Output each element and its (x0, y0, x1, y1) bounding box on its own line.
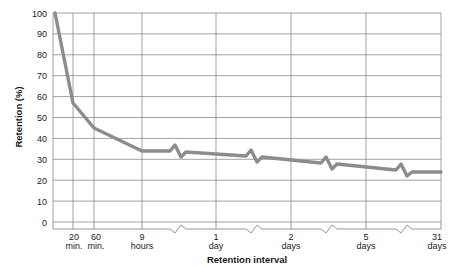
ytick-40: 40 (37, 134, 47, 144)
xtick-60min-unit: min. (87, 241, 104, 251)
xtick-20min-unit: min. (65, 241, 82, 251)
y-axis-tick-labels: 100 90 80 70 60 50 40 30 20 10 0 (32, 9, 47, 228)
y-axis-title: Retention (%) (13, 86, 24, 147)
xtick-5days-unit: days (356, 241, 376, 251)
ytick-70: 70 (37, 71, 47, 81)
chart-canvas: 100 90 80 70 60 50 40 30 20 10 0 20 min.… (0, 0, 465, 267)
ytick-50: 50 (37, 113, 47, 123)
ytick-20: 20 (37, 176, 47, 186)
x-axis-with-breaks (53, 222, 441, 233)
ytick-60: 60 (37, 92, 47, 102)
ytick-30: 30 (37, 155, 47, 165)
ytick-90: 90 (37, 29, 47, 39)
retention-curve-chart: 100 90 80 70 60 50 40 30 20 10 0 20 min.… (0, 0, 465, 267)
ytick-80: 80 (37, 50, 47, 60)
xtick-9hours-unit: hours (131, 241, 154, 251)
x-axis-title: Retention interval (207, 254, 287, 265)
ytick-0: 0 (42, 218, 47, 228)
ytick-10: 10 (37, 197, 47, 207)
ytick-100: 100 (32, 9, 47, 19)
xtick-1day-unit: day (209, 241, 224, 251)
xtick-31days-unit: days (427, 241, 447, 251)
xtick-2days-unit: days (281, 241, 301, 251)
x-axis-tick-labels: 20 min. 60 min. 9 hours 1 day 2 days 5 d… (65, 232, 447, 251)
